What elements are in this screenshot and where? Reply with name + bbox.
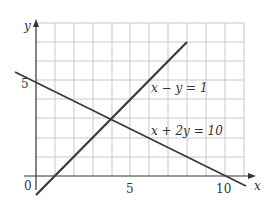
axes [24, 23, 252, 190]
annotation-line1: x − y = 1 [151, 81, 208, 95]
y-tick-5: 5 [21, 77, 29, 91]
chart: y x 0 5 10 5 x − y = 1 x + 2y = 10 [0, 0, 279, 213]
x-tick-5: 5 [126, 182, 134, 196]
origin-label: 0 [24, 179, 32, 193]
x-tick-10: 10 [216, 182, 231, 196]
grid [36, 23, 244, 176]
x-axis-label: x [254, 179, 261, 193]
annotation-line2: x + 2y = 10 [151, 124, 223, 138]
y-axis-label: y [23, 19, 31, 33]
